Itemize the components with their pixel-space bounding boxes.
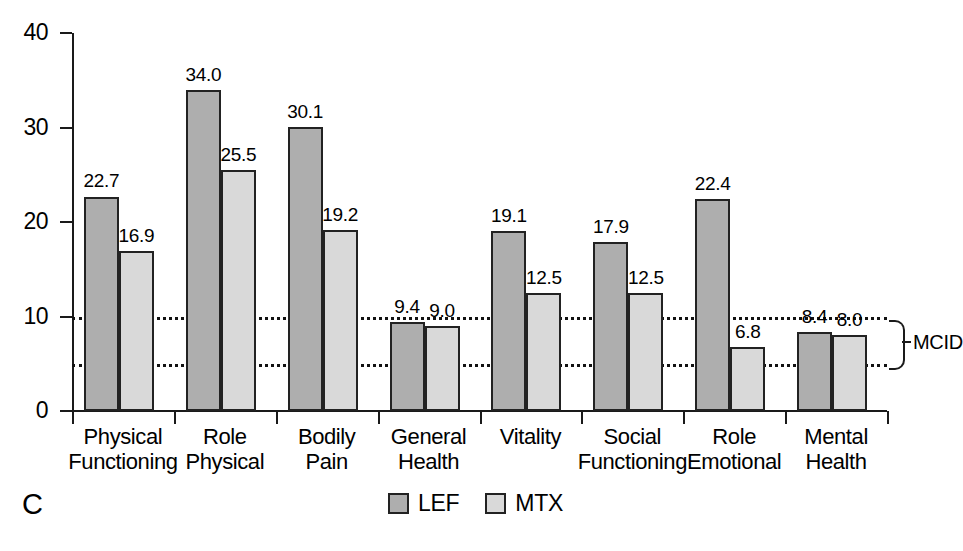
bar-value-label: 12.5 xyxy=(504,268,584,287)
bar-value-label: 16.9 xyxy=(96,226,176,245)
bar-lef-3 xyxy=(390,322,425,411)
bar-value-label: 17.9 xyxy=(571,217,651,236)
x-axis-tick xyxy=(72,411,74,424)
bar-value-label: 9.0 xyxy=(402,301,482,320)
x-axis-category-label-line: Mental xyxy=(766,424,906,449)
bar-mtx-1 xyxy=(221,170,256,411)
bar-value-label: 12.5 xyxy=(606,268,686,287)
bar-value-label: 22.4 xyxy=(673,174,753,193)
x-axis-tick xyxy=(378,411,380,424)
bar-value-label: 19.2 xyxy=(300,205,380,224)
x-axis-tick xyxy=(174,411,176,424)
legend-swatch-mtx-icon xyxy=(485,493,506,514)
bar-lef-6 xyxy=(695,199,730,411)
legend-label-mtx: MTX xyxy=(515,492,563,515)
bar-mtx-6 xyxy=(730,347,765,411)
bar-lef-2 xyxy=(288,127,323,411)
x-axis-tick xyxy=(683,411,685,424)
mcid-bracket-nub xyxy=(902,341,911,343)
x-axis-category-label: MentalHealth xyxy=(766,424,906,474)
bar-mtx-3 xyxy=(425,326,460,411)
x-axis-tick xyxy=(887,411,889,424)
panel-letter: C xyxy=(22,490,43,519)
legend-item-mtx: MTX xyxy=(485,492,563,515)
bar-mtx-0 xyxy=(119,251,154,411)
bar-value-label: 34.0 xyxy=(163,65,243,84)
bar-mtx-2 xyxy=(323,230,358,411)
bar-lef-1 xyxy=(186,90,221,411)
mcid-bracket-icon xyxy=(889,320,905,370)
bar-lef-4 xyxy=(491,231,526,411)
x-axis-tick xyxy=(480,411,482,424)
x-axis-category-label-line: Health xyxy=(766,449,906,474)
bars-layer: 22.716.934.025.530.119.29.49.019.112.517… xyxy=(0,0,952,411)
chart-legend: LEF MTX xyxy=(388,492,563,515)
bar-value-label: 25.5 xyxy=(198,145,278,164)
bar-value-label: 22.7 xyxy=(61,171,141,190)
legend-swatch-lef-icon xyxy=(388,493,409,514)
legend-item-lef: LEF xyxy=(388,492,459,515)
bar-mtx-4 xyxy=(526,293,561,411)
bar-value-label: 19.1 xyxy=(469,206,549,225)
x-axis-tick xyxy=(276,411,278,424)
x-axis-category-label-line: Health xyxy=(359,449,499,474)
mcid-label: MCID xyxy=(913,332,963,352)
bar-mtx-7 xyxy=(832,335,867,411)
bar-mtx-5 xyxy=(628,293,663,411)
x-axis-tick xyxy=(785,411,787,424)
bar-value-label: 30.1 xyxy=(265,102,345,121)
x-axis-tick xyxy=(581,411,583,424)
legend-label-lef: LEF xyxy=(418,492,459,515)
bar-value-label: 8.0 xyxy=(810,310,890,329)
bar-lef-7 xyxy=(797,332,832,411)
